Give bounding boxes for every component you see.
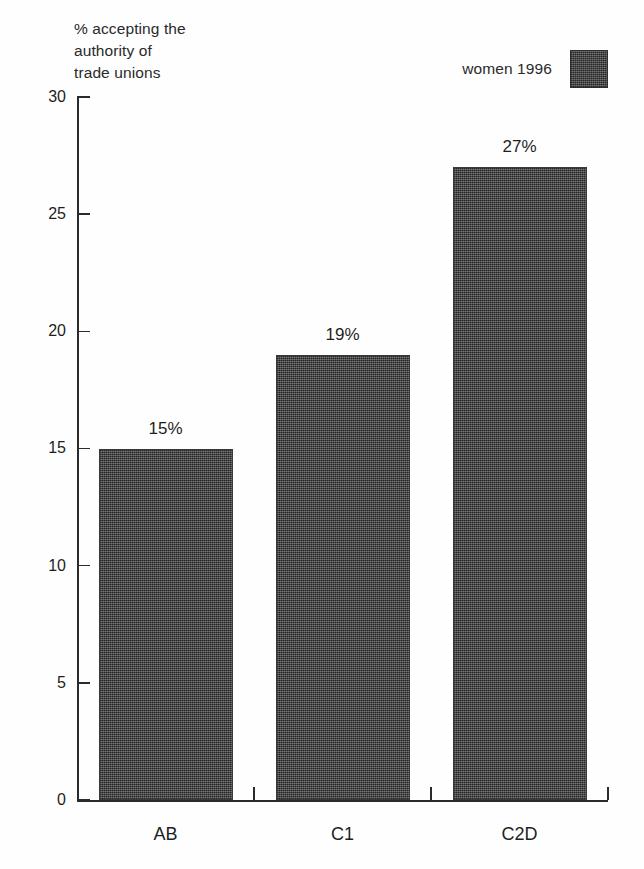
bar-c2d	[453, 167, 587, 800]
plot-area: 051015202530 15%19%27%	[77, 97, 608, 800]
y-tick-label-10: 10	[48, 557, 66, 575]
bar-chart: % accepting the authority of trade union…	[0, 0, 644, 869]
bar-value-label-ab: 15%	[148, 419, 182, 439]
x-axis-label-ab: AB	[153, 824, 177, 845]
legend-label-women-1996: women 1996	[462, 60, 552, 78]
bar-value-label-c2d: 27%	[502, 137, 536, 157]
y-tick-20: 20	[77, 331, 90, 333]
y-tick-label-20: 20	[48, 322, 66, 340]
bar-value-label-c1: 19%	[325, 325, 359, 345]
x-axis-label-c2d: C2D	[501, 824, 537, 845]
x-axis-label-c1: C1	[331, 824, 354, 845]
y-tick-5: 5	[77, 682, 90, 684]
chart-legend: women 1996	[462, 50, 608, 88]
x-axis-line	[77, 800, 608, 802]
y-tick-label-15: 15	[48, 439, 66, 457]
bar-c1	[276, 355, 410, 800]
x-tick-2	[430, 787, 432, 800]
x-tick-3	[607, 787, 609, 800]
legend-swatch-icon	[570, 50, 608, 88]
y-tick-label-25: 25	[48, 205, 66, 223]
y-tick-25: 25	[77, 213, 90, 215]
y-tick-label-5: 5	[57, 674, 66, 692]
y-tick-10: 10	[77, 565, 90, 567]
x-tick-1	[253, 787, 255, 800]
y-tick-15: 15	[77, 448, 90, 450]
y-tick-label-30: 30	[48, 88, 66, 106]
y-tick-0: 0	[77, 799, 90, 801]
y-tick-30: 30	[77, 96, 90, 98]
y-tick-label-0: 0	[57, 791, 66, 809]
y-axis-caption: % accepting the authority of trade union…	[74, 18, 186, 84]
bar-ab	[99, 449, 233, 801]
